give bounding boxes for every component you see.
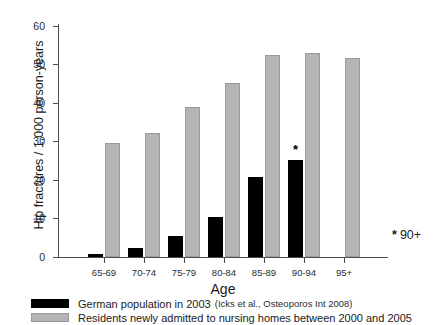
chart-legend: German population in 2003 (Icks et al., …	[31, 297, 439, 325]
y-tick-label-10: 10	[33, 213, 45, 224]
bars-layer: *	[58, 24, 388, 258]
bar-80-84-black	[208, 217, 223, 258]
x-tick-75-79	[184, 258, 185, 263]
bar-70-74-black	[128, 248, 143, 257]
legend-item-nursing-home-residents: Residents newly admitted to nursing home…	[31, 311, 439, 324]
y-tick-label-60: 60	[33, 21, 45, 32]
x-tick-85-89	[264, 258, 265, 263]
bar-65-69-black	[88, 254, 103, 257]
legend-swatch-black	[31, 299, 69, 308]
x-tick-label-75-79: 75-79	[172, 268, 196, 278]
x-tick-label-90-94: 90-94	[292, 268, 316, 278]
x-tick-65-69	[104, 258, 105, 263]
y-tick-label-40: 40	[33, 98, 45, 109]
legend-source-german-population: (Icks et al., Osteoporos Int 2008)	[215, 298, 353, 309]
x-tick-80-84	[224, 258, 225, 263]
x-tick-90-94	[304, 258, 305, 263]
legend-item-german-population: German population in 2003 (Icks et al., …	[31, 297, 439, 310]
bar-80-84-gray	[225, 83, 240, 257]
x-tick-label-95plus: 95+	[336, 268, 352, 278]
footnote-90plus: *90+	[392, 228, 421, 242]
legend-label-nursing-home-residents: Residents newly admitted to nursing home…	[78, 312, 412, 324]
legend-swatch-gray	[31, 313, 69, 322]
x-tick-70-74	[144, 258, 145, 263]
bar-75-79-gray	[185, 107, 200, 257]
y-tick-label-30: 30	[33, 136, 45, 147]
annotation-asterisk: *	[293, 143, 298, 156]
bar-65-69-gray	[105, 143, 120, 257]
y-tick-label-0: 0	[39, 252, 45, 263]
plot-area: 60 50 40 30 20 10 0 65-69 70-74 75-79	[58, 24, 388, 258]
bar-75-79-black	[168, 236, 183, 258]
bar-90-94-gray	[305, 53, 320, 257]
x-tick-label-85-89: 85-89	[252, 268, 276, 278]
bar-85-89-gray	[265, 55, 280, 257]
x-axis-title: Age	[58, 281, 388, 297]
bar-95plus-gray	[345, 58, 360, 257]
footnote-label: 90+	[400, 228, 421, 242]
y-tick-label-20: 20	[33, 175, 45, 186]
x-tick-label-65-69: 65-69	[92, 268, 116, 278]
x-tick-label-80-84: 80-84	[212, 268, 236, 278]
footnote-star: *	[392, 228, 397, 242]
x-tick-label-70-74: 70-74	[132, 268, 156, 278]
bar-85-89-black	[248, 177, 263, 257]
bar-70-74-gray	[145, 133, 160, 257]
y-tick-label-50: 50	[33, 59, 45, 70]
x-tick-95plus	[344, 258, 345, 263]
bar-90-94-black	[288, 160, 303, 257]
legend-label-german-population: German population in 2003	[78, 298, 211, 310]
